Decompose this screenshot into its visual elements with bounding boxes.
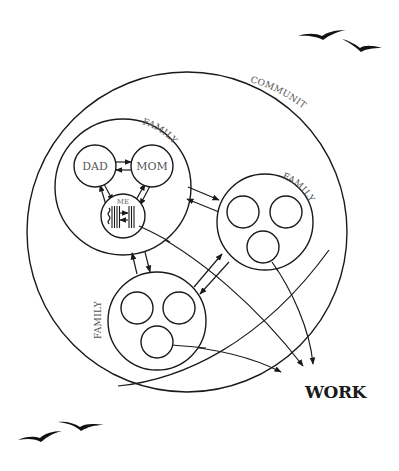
family-2-member xyxy=(227,196,259,228)
link-family2-family3 xyxy=(194,254,229,294)
family-3-member xyxy=(163,292,195,324)
family-2-member xyxy=(247,231,279,263)
family-3-member xyxy=(141,326,173,358)
svg-text:DAD: DAD xyxy=(82,160,108,173)
family-3-member xyxy=(121,292,153,324)
community-diagram: COMMUNITY FAMILY DAD MOM xyxy=(0,0,399,471)
birds-icon xyxy=(18,422,104,442)
member-dad: DAD xyxy=(74,145,116,187)
svg-text:MOM: MOM xyxy=(136,160,168,173)
family-3-label: FAMILY xyxy=(93,300,103,339)
community-label: COMMUNITY xyxy=(0,0,308,110)
work-label: WORK xyxy=(304,382,368,402)
link-family1-family3 xyxy=(132,252,150,274)
link-family1-family2 xyxy=(187,187,219,212)
svg-text:ME: ME xyxy=(117,198,129,206)
member-me: ME xyxy=(101,194,145,238)
birds-icon xyxy=(298,30,382,52)
family-2: FAMILY xyxy=(217,171,317,270)
member-mom: MOM xyxy=(131,145,173,187)
family-3: FAMILY xyxy=(93,272,206,370)
family-2-member xyxy=(270,196,302,228)
family-1: FAMILY DAD MOM ME xyxy=(55,116,191,255)
